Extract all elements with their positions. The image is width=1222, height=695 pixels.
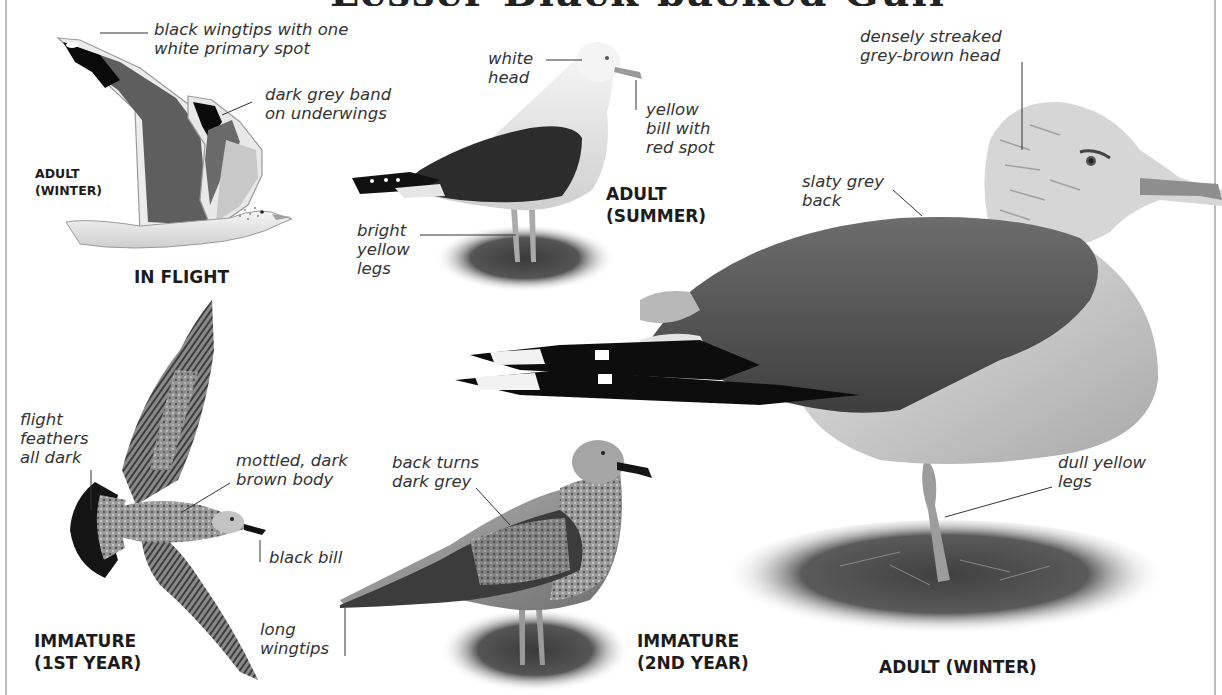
immature-2nd-year-illustration: [340, 440, 652, 692]
annotation-dark-grey-band: dark grey band on underwings: [265, 85, 391, 123]
annotation-long-wingtips: long wingtips: [260, 620, 329, 658]
illustrations: [0, 0, 1222, 695]
annotation-white-head: white head: [488, 49, 533, 87]
caption-in-flight-sub: ADULT (WINTER): [35, 165, 102, 199]
caption-adult-summer: ADULT (SUMMER): [606, 183, 706, 227]
immature-1st-year-illustration: [70, 300, 266, 680]
field-guide-page: Lesser Black-backed Gull: [0, 0, 1222, 695]
annotation-mottled-body: mottled, dark brown body: [236, 451, 348, 489]
annotation-flight-feathers-dark: flight feathers all dark: [20, 410, 89, 467]
annotation-black-bill: black bill: [269, 548, 342, 567]
in-flight-illustration: [58, 38, 292, 248]
annotation-dull-yellow-legs: dull yellow legs: [1058, 453, 1146, 491]
caption-immature-1st-year: IMMATURE (1ST YEAR): [34, 630, 141, 674]
annotation-bright-yellow-legs: bright yellow legs: [357, 221, 410, 278]
annotation-black-wingtips: black wingtips with one white primary sp…: [154, 20, 348, 58]
caption-in-flight: IN FLIGHT: [134, 266, 229, 288]
annotation-yellow-bill: yellow bill with red spot: [646, 100, 714, 157]
caption-immature-2nd-year: IMMATURE (2ND YEAR): [637, 630, 749, 674]
annotation-densely-streaked-head: densely streaked grey-brown head: [860, 27, 1002, 65]
annotation-slaty-grey-back: slaty grey back: [802, 172, 884, 210]
annotation-back-turns-dark-grey: back turns dark grey: [392, 453, 479, 491]
caption-adult-winter: ADULT (WINTER): [879, 656, 1037, 678]
